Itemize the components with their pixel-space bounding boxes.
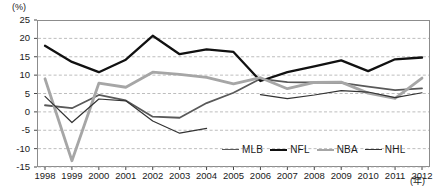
legend-swatch-mlb — [222, 149, 239, 150]
chart-legend: MLBNFLNBANHL — [222, 144, 405, 155]
y-axis-label: 15 — [2, 52, 30, 62]
x-axis-label: 2000 — [84, 171, 114, 181]
y-axis-label: 25 — [2, 15, 30, 25]
x-axis-label: 1999 — [57, 171, 87, 181]
y-axis-label: -15 — [2, 162, 30, 172]
y-axis-label: 5 — [2, 89, 30, 99]
y-axis-label: -10 — [2, 144, 30, 154]
y-axis-label: 10 — [2, 70, 30, 80]
x-axis-label: 2009 — [326, 171, 356, 181]
x-axis-label: 2006 — [245, 171, 275, 181]
legend-item-mlb[interactable]: MLB — [222, 144, 263, 155]
legend-swatch-nba — [317, 149, 334, 151]
legend-item-nba[interactable]: NBA — [317, 144, 358, 155]
legend-swatch-nfl — [270, 149, 287, 151]
x-axis-label: 2003 — [165, 171, 195, 181]
x-axis-label: 2001 — [111, 171, 141, 181]
x-axis-label: 2008 — [299, 171, 329, 181]
x-axis-label: 2011 — [380, 171, 410, 181]
legend-item-nhl[interactable]: NHL — [365, 144, 406, 155]
legend-label: NHL — [385, 144, 406, 155]
x-axis-label: 2004 — [192, 171, 222, 181]
series-line-nhl — [45, 96, 207, 133]
legend-label: NFL — [290, 144, 310, 155]
y-axis-label: 20 — [2, 33, 30, 43]
x-axis-label: 2010 — [353, 171, 383, 181]
chart-canvas — [0, 0, 439, 191]
legend-label: MLB — [242, 144, 263, 155]
legend-swatch-nhl — [365, 149, 382, 150]
y-axis-label: -5 — [2, 125, 30, 135]
line-chart: (%) (年) MLBNFLNBANHL 2520151050-5-10-151… — [0, 0, 439, 191]
series-line-nfl — [45, 36, 422, 81]
legend-item-nfl[interactable]: NFL — [270, 144, 310, 155]
x-axis-label: 2002 — [138, 171, 168, 181]
x-axis-label: 2012 — [407, 171, 437, 181]
x-axis-label: 1998 — [30, 171, 60, 181]
y-axis-label: 0 — [2, 107, 30, 117]
legend-label: NBA — [337, 144, 358, 155]
x-axis-label: 2007 — [272, 171, 302, 181]
x-axis-label: 2005 — [219, 171, 249, 181]
